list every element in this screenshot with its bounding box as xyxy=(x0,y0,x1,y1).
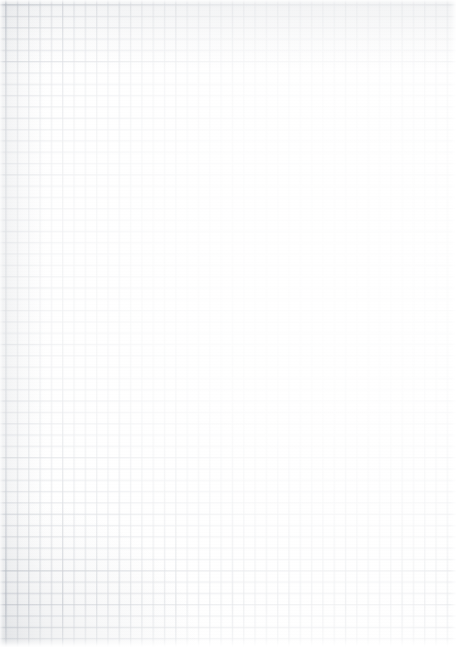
graph-paper-page xyxy=(0,0,456,647)
paper-background xyxy=(0,0,456,647)
